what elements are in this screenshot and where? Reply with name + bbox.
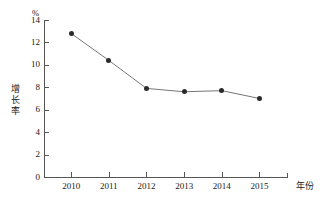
data-line	[0, 0, 326, 212]
data-point	[144, 86, 149, 91]
line-chart-figure: % 增长率 02468101214 2010201120122013201420…	[0, 0, 326, 212]
data-point	[257, 96, 262, 101]
data-point	[182, 89, 187, 94]
plot-area	[0, 0, 326, 212]
x-axis-title: 年份	[296, 181, 314, 191]
data-polyline	[71, 33, 259, 98]
data-point	[69, 31, 74, 36]
